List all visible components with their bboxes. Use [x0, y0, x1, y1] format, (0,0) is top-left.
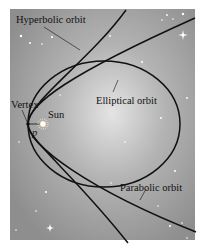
orbit-diagram: Hyperbolic orbit Elliptical orbit Parabo…	[0, 0, 203, 249]
elliptical-orbit-label: Elliptical orbit	[96, 96, 157, 107]
orbit-diagram-svg	[0, 0, 203, 249]
sun-label: Sun	[48, 110, 64, 121]
vertex-label: Vertex	[11, 100, 38, 111]
parabolic-orbit-label: Parabolic orbit	[120, 183, 182, 194]
space-background	[10, 9, 195, 240]
vertex-point-icon	[26, 122, 30, 126]
focal-distance-label: p	[32, 128, 37, 139]
hyperbolic-orbit-label: Hyperbolic orbit	[16, 15, 86, 26]
